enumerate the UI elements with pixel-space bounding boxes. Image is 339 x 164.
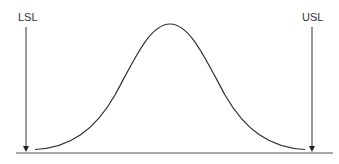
usl-arrowhead-icon — [309, 146, 315, 152]
usl-label: USL — [302, 12, 323, 23]
bell-curve — [35, 24, 305, 150]
normal-distribution-diagram — [0, 0, 339, 164]
lsl-label: LSL — [18, 12, 38, 23]
lsl-arrowhead-icon — [23, 146, 29, 152]
